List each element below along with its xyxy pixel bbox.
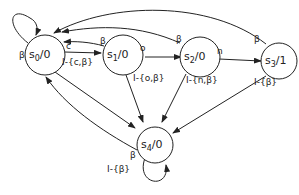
edge-s0-s1 bbox=[64, 52, 101, 53]
edge-s2-s4 bbox=[162, 74, 186, 122]
label-s0-self: β bbox=[19, 50, 25, 60]
svg-text:s3/1: s3/1 bbox=[265, 54, 287, 69]
state-s1: s1/0 bbox=[103, 35, 143, 75]
state-diagram: s0/0 s1/0 s2/0 s3/1 s4/0 β c I-{c,β} β o… bbox=[0, 0, 299, 195]
label-s0-s1: c bbox=[66, 41, 71, 51]
svg-text:s2/0: s2/0 bbox=[184, 50, 206, 65]
label-s1-s2: o bbox=[140, 43, 146, 53]
svg-text:s4/0: s4/0 bbox=[141, 138, 163, 153]
edge-s4-s0 bbox=[46, 77, 137, 150]
label-s1-s4: I-{o,β} bbox=[133, 73, 164, 83]
label-s4-self: I-{β} bbox=[107, 164, 130, 174]
label-s3-s4: I-{β} bbox=[254, 77, 277, 87]
label-s2-s4: I-{n,β} bbox=[186, 75, 218, 85]
state-s3: s3/1 bbox=[261, 43, 297, 79]
label-s0-s4: I-{c,β} bbox=[62, 57, 93, 67]
label-s3-s0: β bbox=[254, 34, 260, 44]
svg-text:s1/0: s1/0 bbox=[107, 48, 129, 63]
label-s4-s0: β bbox=[130, 150, 136, 160]
label-s2-s3: n bbox=[217, 46, 223, 56]
label-s2-s0: β bbox=[176, 34, 182, 44]
edge-s0-s4 bbox=[55, 72, 135, 128]
state-s4: s4/0 bbox=[137, 127, 173, 163]
svg-text:s0/0: s0/0 bbox=[29, 48, 51, 63]
state-s2: s2/0 bbox=[180, 37, 220, 77]
edge-s3-s0 bbox=[54, 10, 266, 44]
state-s0: s0/0 bbox=[25, 35, 65, 75]
label-s1-s0: β bbox=[100, 36, 106, 46]
edge-s2-s3 bbox=[219, 59, 261, 61]
